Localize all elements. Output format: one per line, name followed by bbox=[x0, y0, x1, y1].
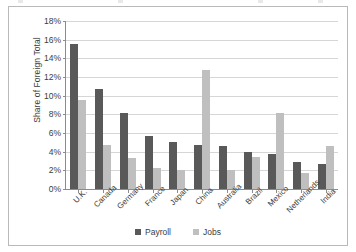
y-axis-tick-label: 6% bbox=[49, 128, 61, 138]
bar-payroll[interactable] bbox=[145, 136, 153, 189]
bar-payroll[interactable] bbox=[194, 145, 202, 189]
bar-payroll[interactable] bbox=[293, 162, 301, 189]
bar-group bbox=[239, 21, 264, 189]
bar-payroll[interactable] bbox=[95, 89, 103, 189]
bar-payroll[interactable] bbox=[169, 142, 177, 189]
y-axis-tick-label: 18% bbox=[44, 16, 61, 26]
y-axis-tick-label: 8% bbox=[49, 109, 61, 119]
bar-jobs[interactable] bbox=[202, 70, 210, 189]
legend-swatch-jobs bbox=[193, 229, 199, 235]
y-axis-tick-label: 12% bbox=[44, 72, 61, 82]
y-axis-tick-mark bbox=[63, 189, 66, 190]
bar-jobs[interactable] bbox=[103, 145, 111, 189]
legend-swatch-payroll bbox=[135, 229, 141, 235]
bar-payroll[interactable] bbox=[268, 154, 276, 189]
bar-group bbox=[264, 21, 289, 189]
legend-item-payroll: Payroll bbox=[135, 227, 171, 237]
bar-payroll[interactable] bbox=[244, 152, 252, 189]
y-axis-tick-label: 10% bbox=[44, 91, 61, 101]
bar-group bbox=[214, 21, 239, 189]
bar-group bbox=[289, 21, 314, 189]
bar-jobs[interactable] bbox=[326, 146, 334, 189]
bar-jobs[interactable] bbox=[252, 157, 260, 189]
y-axis-title: Share of Foreign Total bbox=[32, 5, 42, 155]
x-axis-category-label: U.K. bbox=[72, 187, 89, 204]
chart-frame: Share of Foreign Total 0%2%4%6%8%10%12%1… bbox=[8, 6, 348, 246]
bar-group bbox=[115, 21, 140, 189]
bar-payroll[interactable] bbox=[120, 113, 128, 189]
top-edge-artifact bbox=[0, 0, 356, 4]
bar-group bbox=[91, 21, 116, 189]
bar-group bbox=[190, 21, 215, 189]
legend-label-jobs: Jobs bbox=[203, 227, 221, 237]
bar-jobs[interactable] bbox=[78, 100, 86, 189]
chart-plot-wrapper: Share of Foreign Total 0%2%4%6%8%10%12%1… bbox=[9, 7, 347, 245]
y-axis-tick-label: 2% bbox=[49, 165, 61, 175]
chart-legend: Payroll Jobs bbox=[9, 227, 347, 237]
legend-item-jobs: Jobs bbox=[193, 227, 221, 237]
bar-group bbox=[66, 21, 91, 189]
y-axis-tick-label: 14% bbox=[44, 53, 61, 63]
bar-group bbox=[140, 21, 165, 189]
bar-group bbox=[313, 21, 338, 189]
bar-payroll[interactable] bbox=[219, 146, 227, 189]
plot-area: 0%2%4%6%8%10%12%14%16%18% bbox=[65, 21, 338, 190]
legend-label-payroll: Payroll bbox=[145, 227, 171, 237]
y-axis-tick-label: 16% bbox=[44, 35, 61, 45]
bar-group bbox=[165, 21, 190, 189]
y-axis-tick-label: 4% bbox=[49, 147, 61, 157]
y-axis-tick-label: 0% bbox=[49, 184, 61, 194]
bar-series-container bbox=[66, 21, 338, 189]
bar-jobs[interactable] bbox=[276, 113, 284, 189]
bar-payroll[interactable] bbox=[70, 44, 78, 189]
